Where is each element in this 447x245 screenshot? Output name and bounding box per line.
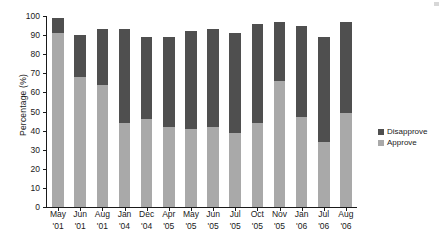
bar-segment-disapprove[interactable]	[252, 24, 264, 123]
bar-group[interactable]	[340, 22, 352, 207]
x-tick-label: Jun'05	[202, 209, 224, 232]
x-tick-label-month: Jul	[224, 209, 246, 221]
bar-group[interactable]	[296, 26, 308, 207]
bar-group[interactable]	[229, 33, 241, 207]
x-tick-label-month: Jan	[291, 209, 313, 221]
x-tick-label: May'05	[180, 209, 202, 232]
chart-legend: DisapproveApprove	[378, 127, 427, 149]
bar-segment-approve[interactable]	[274, 81, 286, 207]
bar-group[interactable]	[141, 37, 153, 207]
x-tick-label: Aug'01	[91, 209, 113, 232]
x-tick-label: Apr'05	[158, 209, 180, 232]
x-tick-label-month: May	[180, 209, 202, 221]
bar-segment-approve[interactable]	[252, 123, 264, 207]
x-tick-label: Jan'04	[113, 209, 135, 232]
x-tick-label-year: '04	[113, 221, 135, 233]
y-tick-mark	[43, 188, 46, 189]
bar-segment-approve[interactable]	[318, 142, 330, 207]
bar-segment-disapprove[interactable]	[296, 26, 308, 118]
x-tick-label-year: '06	[291, 221, 313, 233]
y-tick-mark	[43, 54, 46, 55]
y-tick-mark	[43, 112, 46, 113]
x-tick-label-month: Nov	[268, 209, 290, 221]
x-tick-label-year: '01	[47, 221, 69, 233]
x-axis-labels: May'01Jun'01Aug'01Jan'04Dec'04Apr'05May'…	[46, 209, 358, 243]
bar-group[interactable]	[274, 22, 286, 207]
bar-group[interactable]	[252, 24, 264, 207]
x-tick-label-year: '05	[158, 221, 180, 233]
y-tick-mark	[43, 150, 46, 151]
x-tick-label-year: '05	[180, 221, 202, 233]
bar-segment-disapprove[interactable]	[119, 29, 131, 123]
x-tick-label: Jun'01	[69, 209, 91, 232]
bar-segment-approve[interactable]	[141, 119, 153, 207]
bar-segment-approve[interactable]	[119, 123, 131, 207]
bar-segment-disapprove[interactable]	[340, 22, 352, 114]
y-tick-label: 80	[16, 50, 40, 58]
x-tick-label-year: '05	[246, 221, 268, 233]
bar-group[interactable]	[74, 35, 86, 207]
y-tick-label: 90	[16, 31, 40, 39]
y-tick-label: 60	[16, 88, 40, 96]
x-tick-label-month: Oct	[246, 209, 268, 221]
bar-segment-disapprove[interactable]	[207, 29, 219, 126]
bar-group[interactable]	[207, 29, 219, 207]
bar-segment-disapprove[interactable]	[74, 35, 86, 77]
bar-group[interactable]	[52, 18, 64, 207]
bar-segment-approve[interactable]	[207, 127, 219, 207]
x-tick-label-year: '04	[136, 221, 158, 233]
x-tick-label: Aug'06	[335, 209, 357, 232]
legend-item[interactable]: Disapprove	[378, 127, 427, 137]
legend-swatch-icon	[378, 140, 384, 146]
x-tick-label-year: '06	[335, 221, 357, 233]
bar-group[interactable]	[185, 31, 197, 207]
x-tick-label-year: '05	[224, 221, 246, 233]
bar-segment-disapprove[interactable]	[318, 37, 330, 142]
x-tick-label: Nov'05	[268, 209, 290, 232]
x-tick-label-month: Jun	[69, 209, 91, 221]
y-tick-label: 50	[16, 108, 40, 116]
bar-group[interactable]	[97, 29, 109, 207]
bar-segment-disapprove[interactable]	[185, 31, 197, 128]
legend-item[interactable]: Approve	[378, 138, 427, 148]
bar-segment-disapprove[interactable]	[97, 29, 109, 84]
bar-segment-disapprove[interactable]	[229, 33, 241, 132]
y-tick-mark	[43, 16, 46, 17]
bar-segment-approve[interactable]	[97, 85, 109, 207]
legend-label: Disapprove	[387, 127, 427, 137]
bar-group[interactable]	[318, 37, 330, 207]
legend-label: Approve	[387, 138, 417, 148]
x-tick-label-month: Apr	[158, 209, 180, 221]
bar-segment-approve[interactable]	[74, 77, 86, 207]
x-axis-line	[46, 207, 357, 208]
bar-group[interactable]	[119, 29, 131, 207]
y-tick-mark	[43, 73, 46, 74]
bar-segment-disapprove[interactable]	[274, 22, 286, 81]
x-tick-label: Dec'04	[136, 209, 158, 232]
y-tick-label: 10	[16, 184, 40, 192]
x-tick-label-month: Jan	[113, 209, 135, 221]
bar-segment-approve[interactable]	[340, 113, 352, 207]
bar-segment-approve[interactable]	[185, 129, 197, 207]
bar-segment-approve[interactable]	[52, 33, 64, 207]
bar-segment-approve[interactable]	[163, 127, 175, 207]
bar-segment-disapprove[interactable]	[141, 37, 153, 119]
x-tick-label-year: '01	[91, 221, 113, 233]
bar-segment-approve[interactable]	[296, 117, 308, 207]
bar-segment-disapprove[interactable]	[163, 37, 175, 127]
y-tick-label: 30	[16, 146, 40, 154]
x-tick-label-year: '06	[313, 221, 335, 233]
x-tick-label: Jul'06	[313, 209, 335, 232]
x-tick-label-month: Jun	[202, 209, 224, 221]
bar-group[interactable]	[163, 37, 175, 207]
bar-segment-approve[interactable]	[229, 133, 241, 207]
y-tick-mark	[43, 131, 46, 132]
x-tick-label-month: Jul	[313, 209, 335, 221]
x-tick-label-month: Dec	[136, 209, 158, 221]
x-tick-label: May'01	[47, 209, 69, 232]
x-tick-label: Oct'05	[246, 209, 268, 232]
y-tick-mark	[43, 169, 46, 170]
bar-segment-disapprove[interactable]	[52, 18, 64, 33]
x-tick-label-year: '01	[69, 221, 91, 233]
plot-area: 0102030405060708090100	[46, 16, 356, 207]
